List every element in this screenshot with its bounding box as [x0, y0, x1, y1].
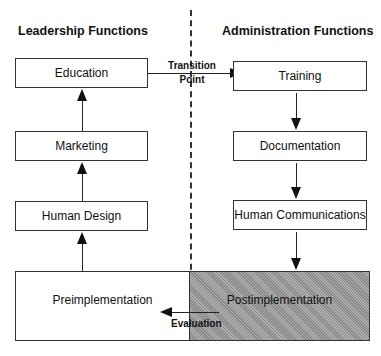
arrow-left-icon	[160, 307, 172, 317]
divider-dashed-line	[190, 10, 192, 290]
arrow-up-icon	[77, 232, 87, 244]
arrow-up-icon	[77, 162, 87, 174]
transition-label: Transition Point	[164, 60, 220, 86]
arrow-line	[82, 243, 83, 271]
arrow-line	[82, 100, 83, 131]
box-education: Education	[15, 58, 148, 88]
arrow-down-icon	[291, 258, 301, 270]
box-human-communications: Human Communications	[233, 200, 367, 230]
arrow-down-icon	[291, 118, 301, 130]
arrow-line	[296, 232, 297, 259]
arrow-line	[82, 172, 83, 201]
preimplementation-section: Preimplementation	[16, 272, 190, 340]
implementation-box: Preimplementation Postimplementation	[15, 271, 370, 341]
evaluation-line	[170, 312, 219, 313]
arrow-line	[296, 93, 297, 119]
evaluation-label: Evaluation	[171, 318, 221, 330]
arrow-down-icon	[291, 187, 301, 199]
leadership-heading: Leadership Functions	[18, 24, 148, 38]
administration-heading: Administration Functions	[222, 24, 373, 38]
box-documentation: Documentation	[233, 131, 367, 161]
box-marketing: Marketing	[15, 131, 148, 161]
arrow-up-icon	[77, 89, 87, 101]
box-training: Training	[233, 61, 367, 91]
box-human-design: Human Design	[15, 201, 148, 231]
arrow-line	[296, 163, 297, 187]
